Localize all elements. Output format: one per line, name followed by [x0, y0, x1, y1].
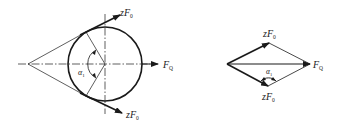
edge-top-right: [269, 43, 310, 64]
label-wrap-angle: α1: [78, 68, 85, 78]
radius-top: [86, 32, 105, 64]
label-bottom-tension-right: zF0: [261, 91, 275, 103]
pulley-diagram: zF0 zF0 FQ α1: [18, 7, 173, 121]
label-bottom-tension: zF0: [125, 109, 139, 121]
belt-extension-top: [28, 32, 86, 64]
label-top-tension-right: zF0: [262, 28, 276, 40]
force-parallelogram: zF0 zF0 FQ α1: [227, 28, 323, 103]
parallelogram-angle-arrowhead-left: [261, 77, 266, 81]
belt-tension-bottom-arrow: [80, 93, 122, 113]
vector-top-tension: [227, 43, 269, 64]
parallelogram-angle-arrowhead-right: [271, 77, 276, 81]
vector-bottom-tension: [227, 64, 268, 86]
label-angle-right: α1: [266, 67, 272, 77]
label-resultant-right: FQ: [312, 59, 323, 71]
radius-bottom: [86, 64, 105, 96]
belt-tension-top-arrow: [80, 15, 120, 35]
belt-force-diagram: zF0 zF0 FQ α1 zF0 zF0 FQ α1: [0, 0, 338, 128]
label-resultant: FQ: [162, 59, 173, 71]
label-top-tension: zF0: [119, 7, 133, 19]
edge-bottom-right: [268, 64, 310, 86]
